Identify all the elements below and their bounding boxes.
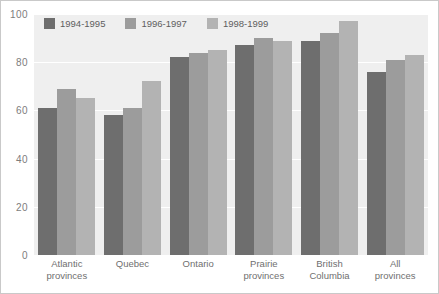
bar [235, 45, 254, 255]
category-label-line: provinces [231, 270, 297, 282]
bar [142, 81, 161, 255]
bar [38, 108, 57, 255]
bar [339, 21, 358, 255]
bar [367, 72, 386, 255]
bar [57, 89, 76, 255]
chart-legend: 1994-19951996-19971998-1999 [44, 18, 268, 29]
bar [320, 33, 339, 255]
x-axis-category-label: Quebec [100, 258, 166, 270]
bar-group [362, 14, 428, 255]
bar [273, 41, 292, 255]
y-axis-tick-label: 60 [0, 105, 28, 116]
bar [76, 98, 95, 255]
bar [123, 108, 142, 255]
bar [189, 53, 208, 255]
legend-swatch-icon [207, 18, 218, 29]
category-label-line: provinces [34, 270, 100, 282]
y-axis-tick-label: 0 [0, 250, 28, 261]
category-label-line: Columbia [297, 270, 363, 282]
legend-item[interactable]: 1998-1999 [207, 18, 268, 29]
y-axis: 020406080100 [0, 14, 30, 255]
legend-item[interactable]: 1994-1995 [44, 18, 105, 29]
bar-group [100, 14, 166, 255]
bar-group [231, 14, 297, 255]
legend-swatch-icon [125, 18, 136, 29]
bar-group [297, 14, 363, 255]
legend-label: 1994-1995 [60, 18, 105, 29]
x-axis-category-label: Ontario [165, 258, 231, 270]
bar-group [165, 14, 231, 255]
category-label-line: British [297, 258, 363, 270]
category-label-line: Atlantic [34, 258, 100, 270]
x-axis-category-label: Allprovinces [362, 258, 428, 282]
y-axis-tick-label: 80 [0, 57, 28, 68]
category-label-line: provinces [362, 270, 428, 282]
bar [208, 50, 227, 255]
bar-group [34, 14, 100, 255]
bar [301, 41, 320, 255]
x-axis-category-label: Prairieprovinces [231, 258, 297, 282]
bar [405, 55, 424, 255]
category-label-line: Ontario [165, 258, 231, 270]
legend-label: 1996-1997 [141, 18, 186, 29]
bar-chart: 020406080100 1994-19951996-19971998-1999… [0, 0, 439, 294]
bar-series-container [34, 14, 428, 255]
x-axis-category-labels: AtlanticprovincesQuebecOntarioPrairiepro… [34, 258, 428, 294]
plot-area [34, 14, 428, 255]
x-axis-category-label: BritishColumbia [297, 258, 363, 282]
legend-item[interactable]: 1996-1997 [125, 18, 186, 29]
x-axis-category-label: Atlanticprovinces [34, 258, 100, 282]
legend-swatch-icon [44, 18, 55, 29]
bar [170, 57, 189, 255]
category-label-line: Prairie [231, 258, 297, 270]
y-axis-tick-label: 100 [0, 9, 28, 20]
y-axis-tick-label: 40 [0, 153, 28, 164]
bar [386, 60, 405, 255]
category-label-line: All [362, 258, 428, 270]
bar [104, 115, 123, 255]
bar [254, 38, 273, 255]
legend-label: 1998-1999 [223, 18, 268, 29]
y-axis-tick-label: 20 [0, 201, 28, 212]
category-label-line: Quebec [100, 258, 166, 270]
